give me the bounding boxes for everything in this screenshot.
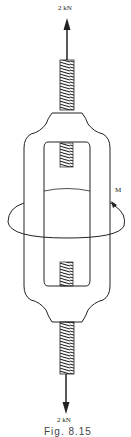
bottom-screw [60,322,74,374]
inner-bottom-screw [60,262,73,286]
inner-top-screw [60,143,73,167]
turnbuckle-diagram [0,0,131,437]
figure-caption: Fig. 8.15 [44,426,92,437]
top-force-arrow-icon [64,18,71,60]
inner-divider [44,189,90,192]
moment-label: M [115,186,121,194]
top-screw [60,60,74,110]
bottom-force-arrow-icon [63,374,70,414]
moment-arrow-icon [8,201,125,238]
bottom-force-label: 2 kN [57,416,71,424]
top-force-label: 2 kN [58,4,72,12]
